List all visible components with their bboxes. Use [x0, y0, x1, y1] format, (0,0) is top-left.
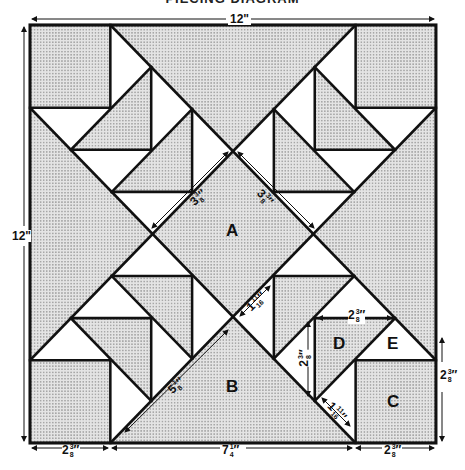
piece-label-b: B	[226, 378, 238, 395]
dim-d-side: 238″	[297, 349, 313, 366]
dim-left-height: 12"	[12, 230, 31, 242]
piece-label-a: A	[226, 222, 238, 239]
dim-top-width: 12"	[228, 13, 251, 25]
dim-bottom-left: 238″	[62, 443, 79, 459]
dim-c-side: 238″	[440, 368, 457, 384]
piece-label-d: D	[333, 335, 345, 352]
piece-label-e: E	[387, 335, 398, 352]
dim-d-top: 238″	[348, 308, 365, 324]
piece-label-c: C	[387, 393, 399, 410]
dim-bottom-mid: 714″	[222, 443, 239, 459]
dim-bottom-right: 238″	[384, 443, 401, 459]
